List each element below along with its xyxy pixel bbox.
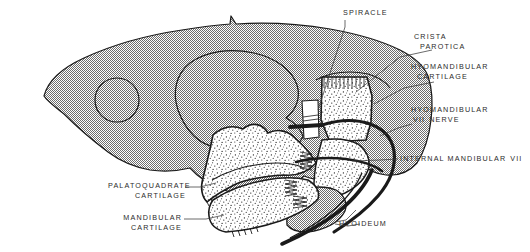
facial-nerve-trunk (290, 125, 322, 127)
label-hyomandibular-cartilage: HYOMANDIBULAR CARTILAGE (411, 62, 489, 81)
label-hyomandibular-nerve-roman: VII (413, 115, 425, 125)
label-internal-mandibular-roman: VII (510, 154, 522, 164)
label-palatoquadrate-cartilage: PALATOQUADRATE CARTILAGE (108, 181, 186, 200)
label-palatoquadrate-cartilage-line1: PALATOQUADRATE (108, 181, 186, 191)
label-crista-parotica-line2: PAROTICA (414, 42, 465, 52)
label-crista-parotica-line1: CRISTA (414, 32, 465, 42)
label-hyoideum: HYOIDEUM (339, 219, 387, 229)
label-hyomandibular-nerve-line2: NERVE (429, 115, 459, 125)
label-internal-mandibular-text: INTERNAL MANDIBULAR (400, 154, 506, 164)
label-crista-parotica: CRISTA PAROTICA (414, 32, 465, 51)
label-mandibular-cartilage-line1: MANDIBULAR (108, 213, 182, 223)
label-spiracle: SPIRACLE (343, 8, 388, 18)
label-mandibular-cartilage-line2: CARTILAGE (108, 223, 182, 233)
label-hyomandibular-nerve: HYOMANDIBULAR VII NERVE (411, 105, 489, 124)
label-hyomandibular-nerve-line1: HYOMANDIBULAR (411, 105, 489, 115)
label-palatoquadrate-cartilage-line2: CARTILAGE (108, 191, 186, 201)
spiracular-tube-group (302, 100, 319, 139)
anatomical-figure: SPIRACLE CRISTA PAROTICA HYOMANDIBULAR C… (0, 0, 530, 252)
label-hyomandibular-cartilage-line2: CARTILAGE (411, 72, 489, 82)
label-hyomandibular-cartilage-line1: HYOMANDIBULAR (411, 62, 489, 72)
label-mandibular-cartilage: MANDIBULAR CARTILAGE (108, 213, 182, 232)
label-internal-mandibular: INTERNAL MANDIBULAR VII (400, 154, 523, 164)
